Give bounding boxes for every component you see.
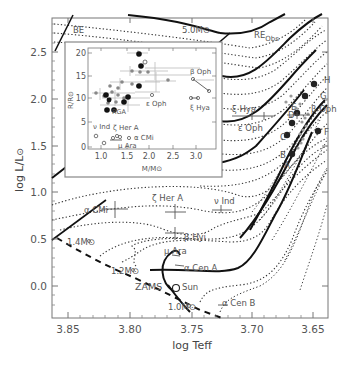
inset-y-title: R/R⊙: [67, 91, 75, 109]
label-mu-ara: μ Ara: [164, 246, 187, 256]
y-tick-0.0: 0.0: [30, 280, 47, 292]
label-re-sub: Obs: [265, 35, 279, 43]
inset-x-tick-2.0: 2.0: [143, 152, 156, 161]
label-xi-hya: ξ Hya: [232, 104, 256, 114]
label-nu-ind: ν Ind: [214, 196, 235, 206]
sun-marker: [173, 285, 180, 292]
svg-text:log L/L⊙: log L/L⊙: [13, 148, 26, 192]
y-tick-1.5: 1.5: [30, 140, 47, 152]
inset-label-alpha-cmi: α CMi: [134, 134, 154, 142]
inset-x-tick-1.0: 1.0: [95, 152, 108, 161]
seq-label-b: B: [280, 150, 286, 160]
inset-x-tick-1.5: 1.5: [121, 152, 134, 161]
x-axis-title: log Teff: [172, 339, 212, 352]
inset-mass-radius: 1.0 1.5 2.0 2.5 3.0 20 15 10 5 0 M/M⊙ R/…: [65, 42, 222, 177]
inset-label-rga: RGA: [112, 108, 127, 116]
x-tick-3.75: 3.75: [180, 323, 203, 335]
inset-label-xi-hya: ξ Hya: [190, 104, 210, 112]
seq-label-a: A: [284, 160, 290, 170]
seq-label-c: C: [280, 132, 286, 142]
seq-label-h: H: [324, 75, 330, 85]
y-axis-title: log L/L⊙: [13, 148, 26, 192]
inset-x-tick-2.5: 2.5: [167, 152, 180, 161]
x-tick-3.65: 3.65: [301, 323, 324, 335]
inset-label-eps-oph: ε Oph: [146, 100, 166, 108]
label-alpha-cen-b: α Cen B: [222, 298, 256, 308]
x-tick-labels: 3.85 3.80 3.75 3.70 3.65: [56, 323, 324, 335]
label-beta-oph: β Oph: [311, 104, 337, 114]
x-tick-3.80: 3.80: [118, 323, 141, 335]
label-mass-5: 5.0M⊙: [182, 25, 210, 35]
label-alpha-cen-a: α Cen A: [184, 263, 218, 273]
label-mass-1-4: 1.4M⊙: [67, 237, 95, 247]
y-axis-title-text: log L/L: [13, 155, 26, 192]
y-tick-2.5: 2.5: [30, 46, 47, 58]
inset-x-title: M/M⊙: [142, 165, 162, 173]
y-tick-labels: 2.5 2.0 1.5 1.0 0.5 0.0: [30, 46, 47, 292]
inset-y-tick-15: 15: [76, 72, 86, 81]
hr-diagram-svg: 3.85 3.80 3.75 3.70 3.65 2.5 2.0 1.5 1.0…: [0, 0, 360, 368]
label-xi-her-a: ζ Her A: [152, 193, 183, 203]
hr-diagram: 3.85 3.80 3.75 3.70 3.65 2.5 2.0 1.5 1.0…: [0, 0, 360, 368]
x-tick-3.85: 3.85: [56, 323, 79, 335]
label-eps-oph: ε Oph: [238, 123, 263, 133]
label-re-main: RE: [254, 30, 265, 40]
label-alpha-cmi: α CMi: [84, 205, 108, 215]
label-mass-1-0: 1.0M⊙: [168, 302, 196, 312]
inset-y-tick-0: 0: [81, 143, 86, 152]
inset-label-beta-oph: β Oph: [190, 68, 211, 76]
y-tick-2.0: 2.0: [30, 93, 47, 105]
label-mass-1-2: 1.2M⊙: [111, 266, 139, 276]
inset-y-tick-5: 5: [81, 118, 86, 127]
inset-y-tick-10: 10: [76, 94, 86, 103]
inset-label-xi-her: ζ Her A: [113, 124, 139, 132]
inset-y-title-text: R/R⊙: [67, 91, 75, 109]
seq-label-g: G: [320, 91, 327, 101]
inset-label-nu-ind: ν Ind: [93, 123, 110, 131]
y-tick-1.0: 1.0: [30, 186, 47, 198]
y-tick-0.5: 0.5: [30, 233, 47, 245]
y-axis-sun-symbol: ⊙: [15, 148, 25, 156]
seq-label-f: F: [324, 127, 329, 137]
label-be: BE: [73, 25, 84, 35]
label-beta-hyi: β Hyi: [184, 232, 206, 242]
inset-label-mu-ara: μ Ara: [118, 142, 137, 150]
inset-y-tick-20: 20: [76, 49, 86, 58]
label-zams: ZAMS: [135, 281, 162, 292]
seq-label-e: E: [291, 102, 296, 112]
inset-x-tick-3.0: 3.0: [190, 152, 203, 161]
label-sun: Sun: [182, 282, 198, 292]
x-tick-3.70: 3.70: [240, 323, 263, 335]
